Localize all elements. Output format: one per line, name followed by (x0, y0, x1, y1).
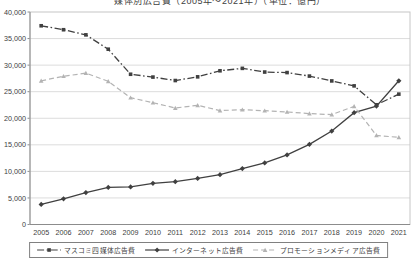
triangle-marker-icon (397, 135, 402, 139)
x-tick-label: 2021 (391, 228, 407, 237)
x-tick-label: 2009 (123, 228, 139, 237)
legend-label: プロモーションメディア広告費 (280, 245, 381, 255)
x-tick-label: 2016 (279, 228, 295, 237)
square-marker-icon (241, 67, 245, 71)
y-tick-label: 40,000 (4, 8, 26, 17)
x-tick-label: 2008 (100, 228, 116, 237)
square-marker-icon (62, 28, 66, 32)
x-tick-label: 2015 (257, 228, 273, 237)
chart-container: 媒体別広告費（2005年～2021年）（単位：億円） 05,00010,0001… (0, 0, 417, 259)
legend-label: インターネット広告費 (172, 245, 244, 255)
square-marker-icon (106, 47, 110, 51)
diamond-marker-icon (195, 176, 200, 181)
square-marker-icon (263, 70, 267, 74)
diamond-marker-icon (128, 184, 133, 189)
triangle-marker-icon (352, 104, 357, 108)
diamond-marker-icon (39, 202, 44, 207)
square-marker-icon (173, 79, 177, 83)
diamond-marker-icon (61, 196, 66, 201)
legend-sample-icon (145, 246, 169, 254)
legend-item: プロモーションメディア広告費 (253, 245, 381, 255)
square-marker-icon (285, 71, 289, 75)
diamond-marker-icon (284, 152, 289, 157)
square-marker-icon (39, 24, 43, 28)
y-tick-label: 35,000 (4, 34, 26, 43)
y-tick-label: 30,000 (4, 61, 26, 70)
diamond-marker-icon (154, 248, 159, 253)
y-tick-label: 15,000 (4, 140, 26, 149)
legend-item: マスコミ四媒体広告費 (37, 245, 136, 255)
square-marker-icon (397, 92, 401, 96)
x-tick-label: 2014 (234, 228, 250, 237)
x-tick-label: 2011 (168, 228, 183, 237)
y-tick-label: 25,000 (4, 87, 26, 96)
square-marker-icon (330, 79, 334, 83)
square-marker-icon (218, 69, 222, 73)
square-marker-icon (352, 84, 356, 88)
y-tick-label: 0 (22, 220, 26, 229)
diamond-marker-icon (173, 179, 178, 184)
chart-canvas: 05,00010,00015,00020,00025,00030,00035,0… (0, 0, 417, 240)
square-marker-icon (84, 33, 88, 37)
x-tick-label: 2018 (324, 228, 340, 237)
series-line (41, 73, 399, 137)
legend: マスコミ四媒体広告費インターネット広告費プロモーションメディア広告費 (29, 242, 389, 258)
x-tick-label: 2006 (56, 228, 72, 237)
x-tick-label: 2019 (346, 228, 362, 237)
diamond-marker-icon (150, 181, 155, 186)
square-marker-icon (47, 248, 51, 252)
legend-sample-icon (253, 246, 277, 254)
diamond-marker-icon (83, 190, 88, 195)
legend-item: インターネット広告費 (145, 245, 244, 255)
x-tick-label: 2020 (368, 228, 384, 237)
x-tick-label: 2012 (190, 228, 206, 237)
y-tick-label: 20,000 (4, 114, 26, 123)
x-tick-label: 2007 (78, 228, 94, 237)
square-marker-icon (308, 74, 312, 78)
diamond-marker-icon (106, 185, 111, 190)
y-tick-label: 10,000 (4, 167, 26, 176)
diamond-marker-icon (240, 166, 245, 171)
x-tick-label: 2017 (301, 228, 317, 237)
square-marker-icon (151, 75, 155, 79)
series-line (41, 81, 399, 205)
legend-label: マスコミ四媒体広告費 (64, 245, 136, 255)
square-marker-icon (129, 72, 133, 76)
diamond-marker-icon (217, 172, 222, 177)
square-marker-icon (196, 75, 200, 79)
diamond-marker-icon (262, 160, 267, 165)
legend-sample-icon (37, 246, 61, 254)
x-tick-label: 2010 (145, 228, 161, 237)
y-tick-label: 5,000 (8, 194, 26, 203)
x-tick-label: 2005 (33, 228, 49, 237)
x-tick-label: 2013 (212, 228, 228, 237)
